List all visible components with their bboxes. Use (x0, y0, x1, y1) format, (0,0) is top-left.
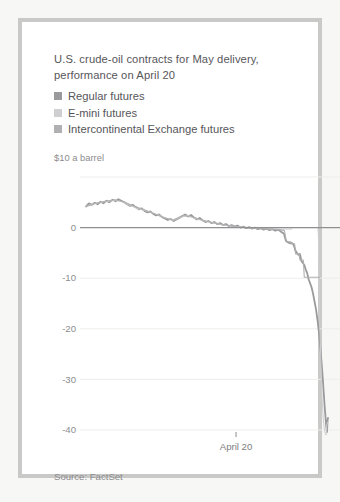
legend-label-emini: E-mini futures (68, 105, 137, 122)
y-axis-top-label: $10 a barrel (54, 152, 104, 163)
chart-frame: U.S. crude-oil contracts for May deliver… (18, 18, 322, 478)
series-line-1 (86, 199, 328, 432)
legend-item-regular-futures: Regular futures (54, 88, 330, 105)
legend-swatch-icon-regular (54, 92, 62, 100)
legend-item-ice-futures: Intercontinental Exchange futures (54, 121, 330, 138)
legend-label-ice: Intercontinental Exchange futures (68, 121, 235, 138)
gridlines-group (80, 177, 340, 430)
plot-area: $10 a barrel 0-10-20-30-40 April 20 (44, 152, 340, 452)
y-tick-label: 0 (71, 222, 76, 233)
legend-label-regular: Regular futures (68, 88, 145, 105)
chart-legend: Regular futures E-mini futures Intercont… (54, 88, 330, 138)
y-tick-label: -10 (62, 272, 76, 283)
chart-title-line-1: U.S. crude-oil contracts for May deliver… (54, 52, 330, 68)
legend-swatch-icon-ice (54, 125, 62, 133)
chart-title-line-2: performance on April 20 (54, 68, 330, 84)
y-tick-labels-group: 0-10-20-30-40 (62, 222, 76, 435)
source-note: Source: FactSet (54, 471, 123, 482)
x-axis-group: April 20 (220, 432, 253, 452)
series-group (86, 199, 328, 435)
legend-item-emini-futures: E-mini futures (54, 105, 330, 122)
chart-title: U.S. crude-oil contracts for May deliver… (54, 52, 330, 83)
y-tick-label: -30 (62, 374, 76, 385)
legend-swatch-icon-emini (54, 109, 62, 117)
y-tick-label: -20 (62, 323, 76, 334)
chart-plot-svg: 0-10-20-30-40 April 20 (44, 152, 340, 452)
y-tick-label: -40 (62, 424, 76, 435)
chart-inner: U.S. crude-oil contracts for May deliver… (44, 44, 340, 496)
x-axis-tick-label: April 20 (220, 441, 253, 452)
series-line-2 (86, 200, 328, 435)
figure-root: U.S. crude-oil contracts for May deliver… (0, 0, 340, 502)
